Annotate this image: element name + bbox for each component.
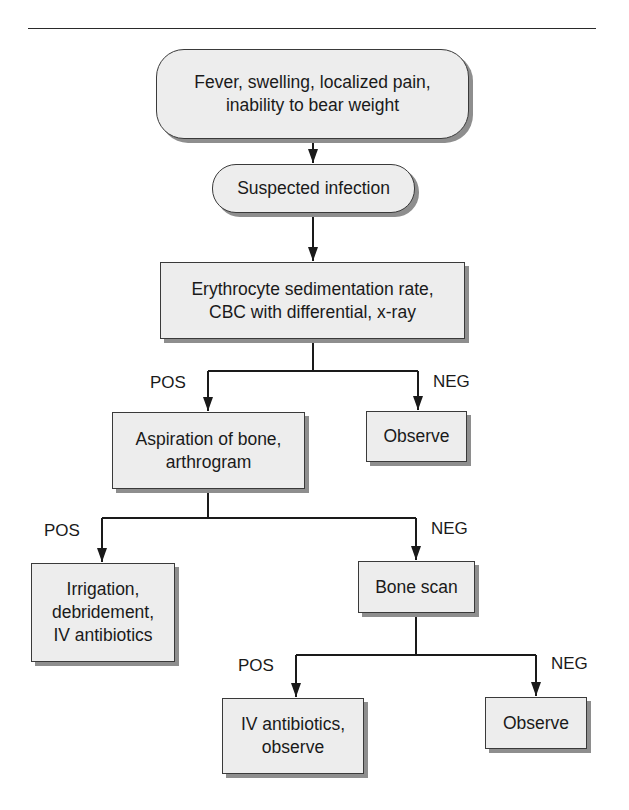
node-symptoms: Fever, swelling, localized pain, inabili… (156, 49, 469, 139)
label-labs-pos: POS (150, 373, 186, 393)
node-irrigation: Irrigation, debridement, IV antibiotics (31, 563, 175, 662)
node-observe-1: Observe (366, 411, 467, 462)
label-scan-neg: NEG (551, 654, 588, 674)
label-scan-pos: POS (238, 656, 274, 676)
node-suspected-infection: Suspected infection (212, 164, 415, 213)
label-asp-pos: POS (44, 521, 80, 541)
node-observe-2: Observe (485, 697, 587, 749)
node-lab-tests: Erythrocyte sedimentation rate, CBC with… (160, 262, 465, 339)
node-iv-antibiotics: IV antibiotics, observe (222, 698, 364, 774)
node-aspiration: Aspiration of bone, arthrogram (112, 412, 305, 489)
node-bone-scan: Bone scan (358, 561, 475, 613)
label-asp-neg: NEG (431, 519, 468, 539)
label-labs-neg: NEG (433, 372, 470, 392)
